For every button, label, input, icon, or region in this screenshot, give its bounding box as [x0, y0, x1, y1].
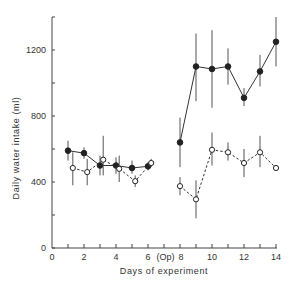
- filled-data-point: [129, 165, 135, 171]
- open-data-point: [149, 160, 154, 165]
- x-tick-label: 6: [145, 252, 150, 262]
- open-data-point: [193, 197, 198, 202]
- filled-data-point: [65, 148, 71, 154]
- x-tick-label: 14: [271, 252, 281, 262]
- x-tick-label: 2: [81, 252, 86, 262]
- open-data-point: [273, 165, 278, 170]
- y-tick-label: 400: [31, 177, 46, 187]
- open-data-point: [177, 184, 182, 189]
- filled-data-point: [257, 69, 263, 75]
- x-tick-label: 10: [207, 252, 217, 262]
- y-tick-label: 1200: [26, 45, 46, 55]
- open-data-point: [101, 157, 106, 162]
- axes: 040080012000246(Op)8101214: [26, 17, 281, 262]
- open-data-point: [85, 170, 90, 175]
- y-tick-label: 0: [41, 243, 46, 253]
- chart: 040080012000246(Op)8101214 Days of exper…: [0, 0, 293, 291]
- filled-data-point: [177, 140, 183, 146]
- filled-data-point: [209, 66, 215, 72]
- open-data-point: [241, 160, 246, 165]
- x-tick-label: (Op): [157, 252, 175, 262]
- y-axis-label: Daily water intake (ml): [11, 97, 21, 200]
- x-tick-label: 4: [113, 252, 118, 262]
- filled-data-point: [241, 95, 247, 101]
- x-tick-label: 12: [239, 252, 249, 262]
- filled-data-point: [193, 64, 199, 70]
- filled-series-line: [68, 151, 148, 168]
- x-tick-label: 8: [178, 252, 183, 262]
- x-axis-label: Days of experiment: [120, 266, 208, 276]
- x-tick-label: 0: [49, 252, 54, 262]
- open-data-point: [225, 150, 230, 155]
- series: [65, 17, 279, 218]
- open-data-point: [209, 147, 214, 152]
- filled-data-point: [273, 39, 279, 45]
- open-data-point: [257, 150, 262, 155]
- filled-data-point: [81, 150, 87, 156]
- y-tick-label: 800: [31, 111, 46, 121]
- open-data-point: [133, 179, 138, 184]
- filled-data-point: [225, 64, 231, 70]
- open-data-point: [117, 166, 122, 171]
- open-series-line: [73, 160, 151, 181]
- open-data-point: [70, 165, 75, 170]
